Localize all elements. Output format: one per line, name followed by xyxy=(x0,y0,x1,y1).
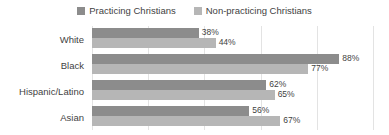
chart-legend: Practicing Christians Non-practicing Chr… xyxy=(0,5,389,16)
bar-value-asian-non-practicing: 67% xyxy=(283,115,300,126)
bar-value-hispanic-latino-non-practicing: 65% xyxy=(278,89,295,100)
bar-hispanic-latino-non-practicing xyxy=(92,90,275,100)
bar-value-black-non-practicing: 77% xyxy=(311,63,328,74)
bar-value-asian-practicing: 56% xyxy=(252,105,269,116)
category-label-asian: Asian xyxy=(0,106,88,128)
category-label-white: White xyxy=(0,28,88,50)
grouped-bar-chart: Practicing Christians Non-practicing Chr… xyxy=(0,0,389,135)
category-axis: White Black Hispanic/Latino Asian xyxy=(0,26,88,130)
bar-line-non-practicing: 44% xyxy=(92,38,373,48)
bar-black-practicing xyxy=(92,54,339,64)
bar-group-white: 38% 44% xyxy=(92,28,373,50)
legend-entry-practicing-christians: Practicing Christians xyxy=(77,5,176,16)
gridline-100 xyxy=(373,26,374,130)
bar-asian-non-practicing xyxy=(92,116,280,126)
bar-value-black-practicing: 88% xyxy=(342,53,359,64)
bar-asian-practicing xyxy=(92,106,249,116)
bar-line-non-practicing: 77% xyxy=(92,64,373,74)
bar-line-non-practicing: 65% xyxy=(92,90,373,100)
category-label-black: Black xyxy=(0,54,88,76)
bar-line-practicing: 56% xyxy=(92,106,373,116)
bar-value-white-non-practicing: 44% xyxy=(219,37,236,48)
bar-white-practicing xyxy=(92,28,199,38)
bar-line-practicing: 62% xyxy=(92,80,373,90)
legend-swatch-icon-practicing xyxy=(77,7,85,15)
legend-entry-non-practicing-christians: Non-practicing Christians xyxy=(194,5,312,16)
plot-area: 38% 44% 88% 77% xyxy=(92,26,373,130)
bar-line-practicing: 88% xyxy=(92,54,373,64)
bar-line-non-practicing: 67% xyxy=(92,116,373,126)
bar-group-hispanic-latino: 62% 65% xyxy=(92,80,373,102)
bar-group-black: 88% 77% xyxy=(92,54,373,76)
bar-hispanic-latino-practicing xyxy=(92,80,266,90)
legend-label-practicing: Practicing Christians xyxy=(89,5,176,16)
bar-black-non-practicing xyxy=(92,64,308,74)
category-label-hispanic-latino: Hispanic/Latino xyxy=(0,80,88,102)
bar-rows: 38% 44% 88% 77% xyxy=(92,26,373,130)
legend-label-non-practicing: Non-practicing Christians xyxy=(206,5,312,16)
bar-white-non-practicing xyxy=(92,38,216,48)
bar-group-asian: 56% 67% xyxy=(92,106,373,128)
legend-swatch-icon-non-practicing xyxy=(194,7,202,15)
bar-value-white-practicing: 38% xyxy=(202,27,219,38)
